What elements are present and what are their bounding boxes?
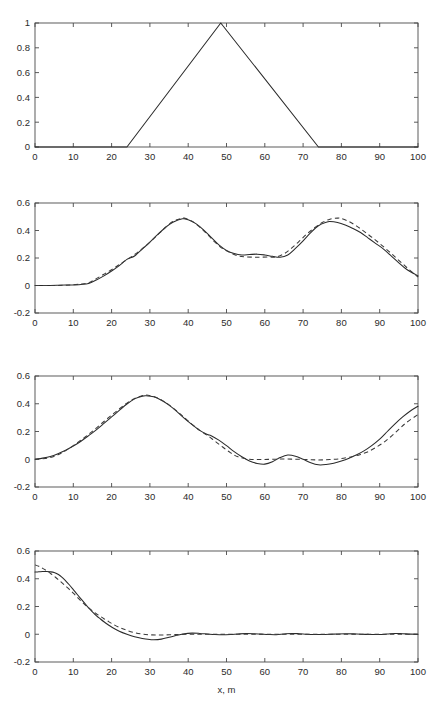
curve-solid (35, 23, 418, 147)
x-tick-label: 10 (68, 666, 79, 677)
y-tick-label: 0 (25, 629, 30, 640)
x-tick-label: 60 (260, 151, 271, 162)
x-tick-label: 100 (410, 151, 426, 162)
x-tick-label: 60 (260, 317, 271, 328)
x-tick-label: 40 (183, 666, 194, 677)
x-tick-label: 90 (374, 666, 385, 677)
curve-solid (35, 572, 418, 640)
x-tick-label: 20 (106, 666, 117, 677)
x-tick-label: 70 (298, 491, 309, 502)
y-tick-label: -0.2 (14, 481, 30, 492)
x-tick-label: 100 (410, 666, 426, 677)
curve-solid (35, 219, 418, 286)
x-tick-label: 50 (221, 317, 232, 328)
x-tick-label: 50 (221, 151, 232, 162)
x-tick-label: 10 (68, 491, 79, 502)
x-tick-label: 100 (410, 491, 426, 502)
y-tick-label: 0.2 (17, 426, 30, 437)
y-tick-label: 0.6 (17, 67, 30, 78)
x-tick-label: 40 (183, 151, 194, 162)
y-tick-label: 0 (25, 280, 30, 291)
y-tick-label: 0.4 (17, 92, 30, 103)
x-tick-label: 40 (183, 317, 194, 328)
x-tick-label: 50 (221, 491, 232, 502)
y-tick-label: 0 (25, 141, 30, 152)
x-tick-label: 60 (260, 491, 271, 502)
x-tick-label: 70 (298, 151, 309, 162)
x-tick-label: 20 (106, 491, 117, 502)
x-tick-label: 70 (298, 666, 309, 677)
x-tick-label: 30 (145, 491, 156, 502)
y-tick-label: 0.6 (17, 545, 30, 556)
y-tick-label: 0.4 (17, 573, 30, 584)
x-axis-label: x, m (218, 684, 236, 695)
y-tick-label: 0.4 (17, 225, 30, 236)
y-tick-label: 0.8 (17, 42, 30, 53)
curve-dashed (35, 395, 418, 460)
plot-svg-3: 0102030405060708090100-0.200.20.40.6 (0, 353, 448, 533)
x-tick-label: 90 (374, 151, 385, 162)
y-tick-label: 0.2 (17, 117, 30, 128)
x-tick-label: 0 (32, 666, 37, 677)
plot-panel-3: 0102030405060708090100-0.200.20.40.6 (0, 353, 448, 533)
x-tick-label: 10 (68, 151, 79, 162)
plot-svg-2: 0102030405060708090100-0.200.20.40.6 (0, 180, 448, 360)
x-tick-label: 0 (32, 317, 37, 328)
y-tick-label: 0 (25, 454, 30, 465)
plot-panel-2: 0102030405060708090100-0.200.20.40.6 (0, 180, 448, 360)
plot-frame (35, 551, 418, 662)
x-tick-label: 80 (336, 151, 347, 162)
y-tick-label: 0.2 (17, 252, 30, 263)
x-tick-label: 80 (336, 666, 347, 677)
y-tick-label: 0.4 (17, 398, 30, 409)
plot-svg-1: 010203040506070809010000.20.40.60.81 (0, 0, 448, 180)
x-tick-label: 20 (106, 317, 117, 328)
plot-panel-4: 0102030405060708090100-0.200.20.40.6x, m (0, 528, 448, 726)
y-tick-label: 0.6 (17, 370, 30, 381)
x-tick-label: 60 (260, 666, 271, 677)
y-tick-label: 0.2 (17, 601, 30, 612)
x-tick-label: 70 (298, 317, 309, 328)
x-tick-label: 0 (32, 151, 37, 162)
plot-panel-1: 010203040506070809010000.20.40.60.81 (0, 0, 448, 180)
x-tick-label: 20 (106, 151, 117, 162)
x-tick-label: 80 (336, 317, 347, 328)
plot-frame (35, 203, 418, 313)
x-tick-label: 50 (221, 666, 232, 677)
y-tick-label: -0.2 (14, 656, 30, 667)
x-tick-label: 40 (183, 491, 194, 502)
plot-svg-4: 0102030405060708090100-0.200.20.40.6x, m (0, 528, 448, 726)
x-tick-label: 30 (145, 666, 156, 677)
x-tick-label: 10 (68, 317, 79, 328)
y-tick-label: 0.6 (17, 197, 30, 208)
x-tick-label: 100 (410, 317, 426, 328)
figure-container: 010203040506070809010000.20.40.60.81 010… (0, 0, 448, 726)
x-tick-label: 90 (374, 317, 385, 328)
y-tick-label: -0.2 (14, 307, 30, 318)
x-tick-label: 80 (336, 491, 347, 502)
x-tick-label: 30 (145, 317, 156, 328)
x-tick-label: 90 (374, 491, 385, 502)
curve-dashed (35, 218, 418, 286)
curve-dashed (35, 565, 418, 635)
y-tick-label: 1 (25, 17, 30, 28)
x-tick-label: 0 (32, 491, 37, 502)
x-tick-label: 30 (145, 151, 156, 162)
plot-frame (35, 23, 418, 147)
